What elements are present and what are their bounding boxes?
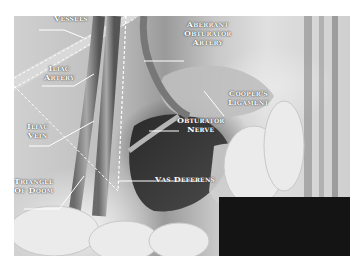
label-epigastric-vessels: Vessels (54, 16, 88, 23)
caption-strip (0, 258, 362, 267)
label-iliac-vein: Iliac Vein (27, 122, 48, 140)
label-coopers-ligament: Cooper's Ligament (228, 89, 269, 107)
vas-deferens-line (118, 16, 126, 191)
label-iliac-artery: Iliac Artery (44, 64, 74, 82)
label-obturator-nerve: Obturator Nerve (177, 116, 225, 134)
redaction-box (219, 197, 350, 256)
abdominal-wall-bands (304, 16, 338, 216)
label-triangle-of-doom: Triangle Of Doom (14, 177, 53, 195)
label-aberrant-obturator-artery: Aberrant Obturator Artery (184, 20, 232, 47)
label-vas-deferens: Vas Deferens (155, 175, 215, 184)
